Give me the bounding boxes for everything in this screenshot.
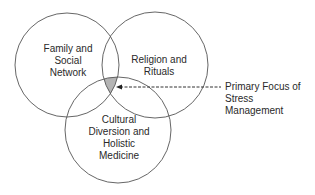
label-line: Network xyxy=(41,67,95,79)
callout-arrowhead-icon xyxy=(116,85,122,90)
label-line: Family and xyxy=(41,43,95,55)
label-line: Social xyxy=(41,55,95,67)
label-line: Holistic xyxy=(86,138,152,150)
label-family-social-network: Family and Social Network xyxy=(41,43,95,79)
label-line: Religion and xyxy=(128,54,190,66)
callout-line: Management xyxy=(225,105,301,117)
label-line: Diversion and xyxy=(86,126,152,138)
label-line: Rituals xyxy=(128,66,190,78)
label-line: Medicine xyxy=(86,150,152,162)
callout-line: Primary Focus of xyxy=(225,81,301,93)
callout-primary-focus-stress-management: Primary Focus of Stress Management xyxy=(225,81,301,117)
callout-line: Stress xyxy=(225,93,301,105)
label-line: Cultural xyxy=(86,114,152,126)
label-cultural-diversion-holistic-medicine: Cultural Diversion and Holistic Medicine xyxy=(86,114,152,162)
label-religion-rituals: Religion and Rituals xyxy=(128,54,190,78)
